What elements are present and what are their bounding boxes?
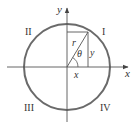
- adjacent-label: x: [73, 69, 79, 80]
- quadrant-4-label: IV: [100, 102, 111, 113]
- angle-label: θ: [77, 48, 82, 59]
- y-axis-label: y: [56, 3, 62, 15]
- angle-arc: [73, 58, 78, 67]
- quadrant-3-label: III: [24, 102, 34, 113]
- quadrant-2-label: II: [25, 26, 32, 37]
- hypotenuse-label: r: [72, 37, 76, 48]
- unit-circle-diagram: y x II I III IV r θ y x: [0, 0, 136, 123]
- quadrant-1-label: I: [102, 26, 105, 37]
- x-axis-label: x: [124, 67, 130, 79]
- opposite-label: y: [89, 47, 95, 58]
